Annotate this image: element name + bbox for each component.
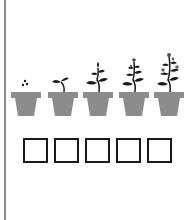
page-edge-line — [4, 0, 6, 220]
answer-box-1[interactable] — [23, 138, 48, 163]
answer-box-2[interactable] — [54, 138, 79, 163]
pot-with-sprout-icon — [48, 50, 78, 118]
answer-box-3[interactable] — [85, 138, 110, 163]
pot-with-seeds-icon — [11, 50, 41, 118]
answer-box-4[interactable] — [116, 138, 141, 163]
pot-with-flowering-plant-icon — [154, 50, 184, 118]
answer-box-5[interactable] — [147, 138, 172, 163]
pot-with-young-plant-icon — [83, 50, 113, 118]
pot-with-budding-plant-icon — [119, 50, 149, 118]
